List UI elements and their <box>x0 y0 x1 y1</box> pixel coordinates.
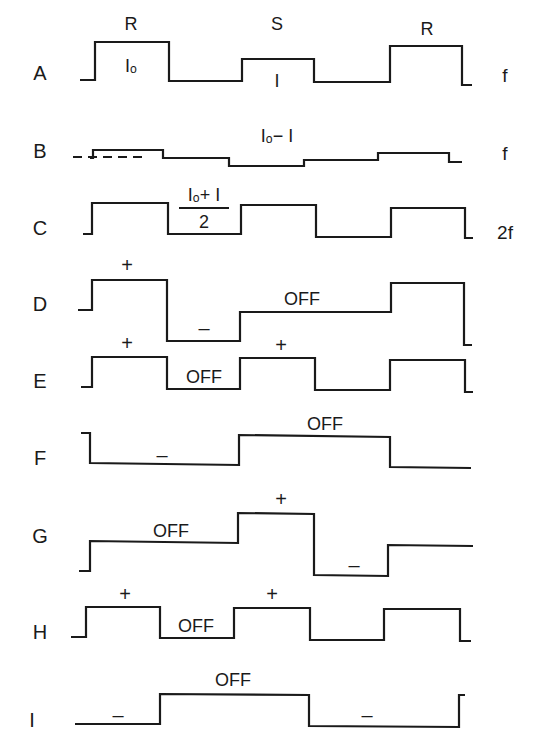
waveform-annotation: R <box>125 14 138 34</box>
waveform-row-g: GOFF+– <box>32 488 473 576</box>
waveform-annotation: R <box>421 19 434 39</box>
waveform-row-f: F–OFF <box>34 414 471 469</box>
waveform-annotation: OFF <box>215 670 251 690</box>
waveform-annotation: + <box>119 583 131 605</box>
waveform-trace <box>79 513 473 576</box>
waveform-rows: ARIₒSIRfBIₒ− IfCIₒ+ I22fD+–OFFE+OFF+F–OF… <box>29 14 513 731</box>
waveform-trace <box>81 433 471 468</box>
row-label: H <box>33 621 47 643</box>
row-label: G <box>32 525 48 547</box>
waveform-annotation: – <box>156 444 168 466</box>
waveform-annotation: OFF <box>153 521 189 541</box>
waveform-annotation: OFF <box>178 616 214 636</box>
waveform-annotation: + <box>275 488 287 510</box>
frequency-label: f <box>502 143 508 164</box>
waveform-annotation: Iₒ+ I <box>188 185 220 205</box>
frequency-label: f <box>502 65 508 86</box>
waveform-annotation: – <box>348 554 360 576</box>
waveform-annotation: + <box>275 334 287 356</box>
waveform-trace <box>81 357 473 392</box>
waveform-row-b: BIₒ− If <box>33 126 508 166</box>
waveform-annotation: – <box>112 704 124 726</box>
waveform-row-a: ARIₒSIRf <box>33 14 508 91</box>
waveform-diagram: ARIₒSIRfBIₒ− IfCIₒ+ I22fD+–OFFE+OFF+F–OF… <box>0 0 544 754</box>
waveform-row-i: I–OFF– <box>29 670 465 731</box>
waveform-trace <box>71 607 471 641</box>
waveform-annotation: – <box>361 704 373 726</box>
waveform-annotation: + <box>121 332 133 354</box>
waveform-annotation: OFF <box>284 289 320 309</box>
row-label: I <box>29 709 35 731</box>
waveform-annotation: S <box>271 14 283 34</box>
row-label: D <box>33 293 47 315</box>
waveform-annotation: I <box>274 71 279 91</box>
row-label: F <box>34 447 46 469</box>
waveform-annotation: – <box>198 317 210 339</box>
waveform-trace <box>83 203 473 238</box>
frequency-label: 2f <box>497 222 514 243</box>
waveform-annotation: OFF <box>186 367 222 387</box>
row-label: E <box>33 370 46 392</box>
waveform-row-c: CIₒ+ I22f <box>33 185 514 243</box>
waveform-annotation: OFF <box>307 414 343 434</box>
waveform-annotation: Iₒ− I <box>261 126 293 146</box>
row-label: B <box>33 140 46 162</box>
waveform-annotation: + <box>266 583 278 605</box>
waveform-trace <box>75 694 465 727</box>
waveform-annotation: Iₒ <box>125 56 137 76</box>
waveform-annotation: + <box>121 254 133 276</box>
waveform-row-e: E+OFF+ <box>33 332 473 392</box>
waveform-row-h: H+OFF+ <box>33 583 471 643</box>
waveform-annotation: 2 <box>199 212 209 232</box>
waveform-row-d: D+–OFF <box>33 254 472 345</box>
waveform-trace <box>90 150 462 166</box>
row-label: A <box>33 62 47 84</box>
row-label: C <box>33 217 47 239</box>
